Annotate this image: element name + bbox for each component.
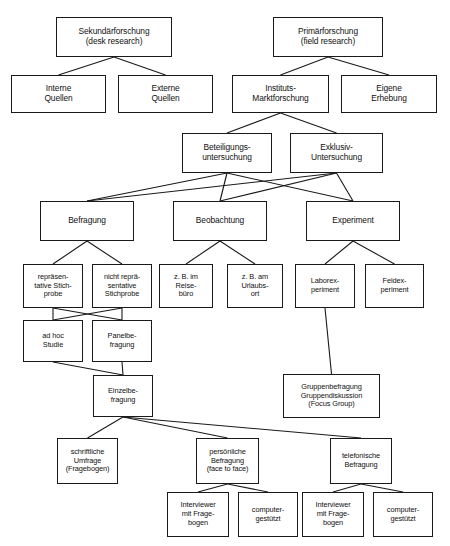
node-befragung[interactable]: Befragung bbox=[40, 201, 134, 241]
node-label-comp1: computer- gestützt bbox=[240, 506, 296, 523]
node-label-panel: Panelbe- fragung bbox=[94, 332, 150, 349]
node-repraes[interactable]: repräsen- tative Stich- probe bbox=[23, 264, 83, 308]
node-label-beteiligung: Beteiligungs- untersuchung bbox=[184, 143, 270, 163]
node-label-schriftlich: schriftliche Umfrage (Fragebogen) bbox=[59, 448, 116, 474]
node-persoenlich[interactable]: persönliche Befragung (face to face) bbox=[196, 438, 259, 484]
node-label-interne: Interne Quellen bbox=[13, 84, 104, 104]
node-label-intv1: Interviewer mit Frage- bogen bbox=[169, 501, 227, 527]
node-label-nichtrepraes: nicht reprä- sentative Stichprobe bbox=[94, 273, 150, 299]
node-label-instituts: Instituts- Marktforschung bbox=[234, 84, 327, 104]
edge-instituts-to-exklusiv bbox=[281, 113, 337, 133]
edge-einzel-to-telefonisch bbox=[123, 417, 361, 438]
edge-befragung-to-repraes bbox=[53, 241, 87, 264]
node-feld[interactable]: Feldex- periment bbox=[365, 264, 424, 308]
node-label-einzel: Einzelbe- fragung bbox=[95, 387, 151, 404]
node-comp1[interactable]: computer- gestützt bbox=[238, 492, 298, 537]
node-experiment[interactable]: Experiment bbox=[306, 201, 400, 241]
edge-einzel-to-schriftlich bbox=[88, 417, 124, 438]
node-label-eigene: Eigene Erhebung bbox=[343, 84, 435, 104]
node-label-feld: Feldex- periment bbox=[367, 277, 422, 294]
edge-beobachtung-to-urlaubsort bbox=[220, 241, 255, 264]
node-exklusiv[interactable]: Exklusiv- Untersuchung bbox=[290, 133, 383, 173]
node-einzel[interactable]: Einzelbe- fragung bbox=[93, 375, 153, 417]
node-label-beobachtung: Beobachtung bbox=[175, 216, 265, 226]
node-panel[interactable]: Panelbe- fragung bbox=[92, 320, 152, 362]
edge-primaer-to-instituts bbox=[281, 57, 329, 75]
node-label-experiment: Experiment bbox=[308, 216, 398, 226]
edge-exklusiv-to-experiment bbox=[337, 173, 354, 201]
node-label-comp2: computer- gestützt bbox=[375, 506, 431, 523]
node-urlaubsort[interactable]: z. B. am Urlaubs- ort bbox=[227, 264, 283, 308]
node-label-telefonisch: telefonische Befragung bbox=[332, 452, 390, 469]
edge-beteiligung-to-experiment bbox=[227, 173, 353, 201]
edge-exklusiv-to-beobachtung bbox=[220, 173, 337, 201]
node-label-befragung: Befragung bbox=[42, 216, 132, 226]
node-beobachtung[interactable]: Beobachtung bbox=[173, 201, 267, 241]
edge-persoenlich-to-intv1 bbox=[198, 484, 228, 492]
node-externe[interactable]: Externe Quellen bbox=[118, 75, 213, 113]
edge-persoenlich-to-comp1 bbox=[228, 484, 269, 492]
edge-labor-to-gruppe bbox=[325, 308, 332, 374]
node-nichtrepraes[interactable]: nicht reprä- sentative Stichprobe bbox=[92, 264, 152, 308]
node-eigene[interactable]: Eigene Erhebung bbox=[341, 75, 437, 113]
node-label-urlaubsort: z. B. am Urlaubs- ort bbox=[229, 273, 281, 299]
node-label-adhoc: ad hoc Studie bbox=[25, 332, 81, 349]
node-telefonisch[interactable]: telefonische Befragung bbox=[330, 438, 392, 484]
node-label-labor: Laborex- periment bbox=[297, 277, 353, 294]
node-schriftlich[interactable]: schriftliche Umfrage (Fragebogen) bbox=[57, 438, 118, 484]
node-interne[interactable]: Interne Quellen bbox=[11, 75, 106, 113]
edge-primaer-to-eigene bbox=[328, 57, 389, 75]
node-gruppe[interactable]: Gruppenbefragung Gruppendiskussion (Focu… bbox=[283, 374, 380, 418]
edge-exklusiv-to-befragung bbox=[87, 173, 337, 201]
edge-repraes-to-panel bbox=[53, 308, 122, 320]
node-label-reisebuero: z. B. im Reise- büro bbox=[161, 273, 211, 299]
node-label-intv2: Interviewer mit Frage- bogen bbox=[304, 501, 362, 527]
edge-panel-to-einzel bbox=[122, 362, 123, 375]
node-label-primaer: Primärforschung (field research) bbox=[275, 27, 381, 47]
node-labor[interactable]: Laborex- periment bbox=[295, 264, 355, 308]
edge-adhoc-to-einzel bbox=[53, 362, 123, 375]
edge-instituts-to-beteiligung bbox=[227, 113, 281, 133]
edge-experiment-to-labor bbox=[325, 241, 353, 264]
diagram-canvas: Sekundärforschung (desk research)Primärf… bbox=[0, 0, 450, 546]
edge-sekundaer-to-interne bbox=[59, 57, 115, 75]
edge-telefonisch-to-intv2 bbox=[333, 484, 361, 492]
edge-telefonisch-to-comp2 bbox=[361, 484, 403, 492]
edge-sekundaer-to-externe bbox=[114, 57, 166, 75]
node-reisebuero[interactable]: z. B. im Reise- büro bbox=[159, 264, 213, 308]
edge-beteiligung-to-befragung bbox=[87, 173, 227, 201]
node-label-exklusiv: Exklusiv- Untersuchung bbox=[292, 143, 381, 163]
node-label-repraes: repräsen- tative Stich- probe bbox=[25, 273, 81, 299]
node-label-persoenlich: persönliche Befragung (face to face) bbox=[198, 448, 257, 474]
node-intv2[interactable]: Interviewer mit Frage- bogen bbox=[302, 492, 364, 537]
node-label-gruppe: Gruppenbefragung Gruppendiskussion (Focu… bbox=[285, 383, 378, 409]
edge-beteiligung-to-beobachtung bbox=[220, 173, 227, 201]
edge-nichtrepraes-to-adhoc bbox=[53, 308, 122, 320]
node-label-sekundaer: Sekundärforschung (desk research) bbox=[58, 27, 170, 47]
node-primaer[interactable]: Primärforschung (field research) bbox=[273, 17, 383, 57]
node-beteiligung[interactable]: Beteiligungs- untersuchung bbox=[182, 133, 272, 173]
edge-beobachtung-to-reisebuero bbox=[186, 241, 220, 264]
edge-einzel-to-persoenlich bbox=[123, 417, 228, 438]
node-sekundaer[interactable]: Sekundärforschung (desk research) bbox=[56, 17, 172, 57]
node-intv1[interactable]: Interviewer mit Frage- bogen bbox=[167, 492, 229, 537]
edge-experiment-to-feld bbox=[353, 241, 395, 264]
edge-befragung-to-nichtrepraes bbox=[87, 241, 122, 264]
node-label-externe: Externe Quellen bbox=[120, 84, 211, 104]
node-adhoc[interactable]: ad hoc Studie bbox=[23, 320, 83, 362]
node-comp2[interactable]: computer- gestützt bbox=[373, 492, 433, 537]
node-instituts[interactable]: Instituts- Marktforschung bbox=[232, 75, 329, 113]
